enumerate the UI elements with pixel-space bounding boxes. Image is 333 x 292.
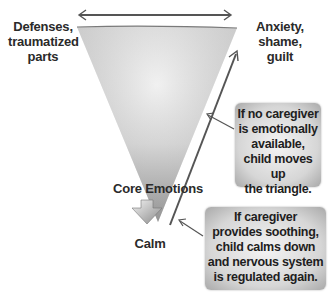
callout-pointer-2 <box>179 219 203 236</box>
callout-caregiver-soothing: If caregiver provides soothing, child ca… <box>205 207 326 290</box>
top-double-arrow <box>79 10 231 20</box>
label-anxiety: Anxiety, shame, guilt <box>240 19 320 64</box>
change-triangle-diagram: Defenses, traumatized parts Anxiety, sha… <box>0 0 333 292</box>
label-calm: Calm <box>125 236 175 251</box>
callout-no-caregiver: If no caregiver is emotionally available… <box>235 103 321 187</box>
label-defenses: Defenses, traumatized parts <box>8 19 78 64</box>
label-core-emotions: Core Emotions <box>108 181 208 196</box>
